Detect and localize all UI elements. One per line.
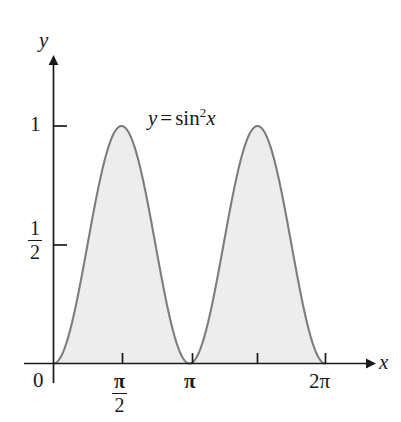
x-axis-arrowhead [366, 359, 376, 369]
equation-argument: x [206, 106, 215, 130]
y-tick-label-one-half: 1 2 [28, 218, 42, 263]
plot-canvas [0, 0, 401, 422]
fraction-denominator: 2 [112, 395, 127, 416]
y-axis-label: y [39, 30, 48, 51]
shaded-area-under-curve [54, 126, 326, 364]
fraction-denominator: 2 [28, 242, 42, 263]
fraction-one-half: 1 2 [28, 218, 42, 263]
fraction-pi-over-two: π 2 [112, 371, 127, 416]
fraction-numerator: 1 [28, 218, 42, 239]
y-axis-arrowhead [49, 55, 59, 65]
x-tick-label-pi: π [184, 371, 196, 392]
equation-function-name: sin [175, 106, 200, 130]
x-axis-label: x [379, 352, 388, 373]
y-tick-label-1: 1 [30, 114, 41, 135]
figure-container: y x 1 1 2 0 π 2 π 2π y=sin2x [0, 0, 401, 422]
x-tick-label-two-pi: 2π [309, 371, 330, 392]
equation-lhs: y [148, 106, 157, 130]
x-tick-label-half-pi: π 2 [112, 371, 127, 416]
equation-annotation: y=sin2x [148, 108, 216, 129]
origin-label: 0 [33, 370, 44, 391]
equation-operator: = [157, 106, 175, 130]
fraction-numerator: π [112, 371, 127, 392]
